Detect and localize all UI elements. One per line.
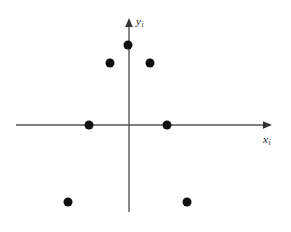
data-point-group [64, 41, 192, 207]
y-axis-label: yi [136, 16, 143, 27]
x-axis-arrow-icon [263, 121, 272, 129]
data-point [64, 198, 73, 207]
data-point [85, 121, 94, 130]
data-point [124, 41, 133, 50]
plot-canvas [0, 0, 291, 232]
data-point [183, 198, 192, 207]
scatter-plot-figure: yi xi [0, 0, 291, 232]
data-point [106, 59, 115, 68]
x-axis-label: xi [263, 134, 270, 145]
data-point [163, 121, 172, 130]
data-point [146, 59, 155, 68]
y-axis-arrow-icon [125, 18, 133, 27]
